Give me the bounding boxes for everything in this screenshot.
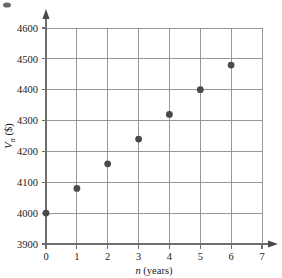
ytick-label-4500: 4500	[17, 54, 38, 65]
data-point: n=3, Vn=4240	[135, 136, 142, 143]
xtick-label-0: 0	[43, 251, 48, 262]
vertical-gridlines	[77, 28, 262, 244]
horizontal-gridlines	[46, 28, 262, 244]
y-axis-title: Vn ($)	[3, 123, 17, 149]
x-axis	[46, 240, 278, 247]
ytick-label-4200: 4200	[17, 146, 38, 157]
data-point: n=1, Vn=4080	[74, 185, 81, 192]
xtick-label-7: 7	[259, 251, 264, 262]
y-axis-arrow-icon	[42, 9, 49, 19]
y-axis-title-unit: ($)	[3, 123, 15, 138]
xtick-label-2: 2	[105, 251, 110, 262]
x-axis-title: n (years)	[135, 265, 173, 277]
ytick-label-4600: 4600	[17, 23, 38, 34]
data-point: n=6, Vn=4480	[228, 62, 235, 69]
scan-artifact-mark	[3, 2, 11, 7]
chart-canvas: 3900 4000 4100 4200 4300 4400 4500 4600 …	[0, 0, 282, 278]
xtick-label-1: 1	[74, 251, 79, 262]
x-axis-arrow-icon	[268, 240, 278, 247]
xtick-label-4: 4	[167, 251, 173, 262]
data-point: n=4, Vn=4320	[166, 111, 173, 118]
x-axis-title-unit: (years)	[141, 265, 173, 277]
ytick-label-4400: 4400	[17, 84, 38, 95]
ytick-label-4300: 4300	[17, 115, 38, 126]
y-tick-labels: 3900 4000 4100 4200 4300 4400 4500 4600	[17, 23, 38, 250]
x-tick-labels: 0 1 2 3 4 5 6 7	[43, 251, 264, 262]
xtick-label-3: 3	[136, 251, 141, 262]
ytick-label-4000: 4000	[17, 208, 38, 219]
y-axis	[42, 9, 49, 244]
ytick-label-3900: 3900	[17, 239, 38, 250]
x-tick-marks	[46, 244, 262, 249]
xtick-label-5: 5	[198, 251, 203, 262]
scatter-chart: 3900 4000 4100 4200 4300 4400 4500 4600 …	[0, 0, 282, 278]
xtick-label-6: 6	[228, 251, 233, 262]
data-point: n=5, Vn=4400	[197, 86, 204, 93]
ytick-label-4100: 4100	[17, 177, 38, 188]
data-point: n=2, Vn=4160	[104, 160, 111, 167]
data-point: n=0, Vn=4000	[43, 210, 50, 217]
